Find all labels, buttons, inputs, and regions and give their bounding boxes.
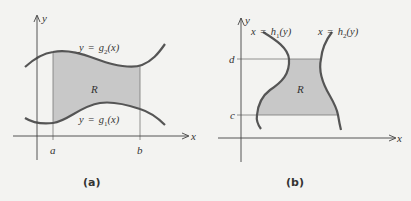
region-label-a: R — [90, 83, 98, 95]
panel-a: x y a b R y = g2(x) y = g1(x) (a) — [13, 12, 196, 189]
curve-label-h2: x = h2(y) — [317, 26, 359, 40]
caption-b: (b) — [286, 176, 304, 189]
y-axis-label-b: y — [244, 14, 250, 26]
tick-label-d: d — [229, 53, 235, 65]
y-axis-label-a: y — [41, 12, 47, 24]
diagram-canvas: x y a b R y = g2(x) y = g1(x) (a) — [0, 0, 411, 201]
curve-label-g1: y = g1(x) — [78, 114, 120, 128]
region-label-b: R — [296, 83, 304, 95]
tick-label-b: b — [137, 144, 143, 156]
tick-label-c: c — [230, 109, 235, 121]
tick-label-a: a — [50, 144, 56, 156]
x-axis-label-b: x — [396, 132, 402, 144]
caption-a: (a) — [83, 176, 100, 189]
curve-label-g2: y = g2(x) — [78, 42, 120, 56]
panel-b: x y d c R x = h1(y) x = h2(y) (b) — [218, 14, 402, 189]
x-axis-label-a: x — [190, 130, 196, 142]
